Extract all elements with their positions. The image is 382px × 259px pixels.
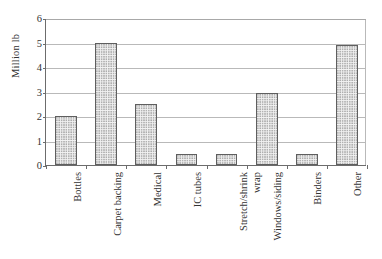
plot-area (45, 19, 366, 166)
bar (95, 43, 117, 166)
bars-container (46, 19, 366, 165)
bar (55, 116, 77, 165)
bar (135, 104, 157, 165)
x-tick-label-line: Stretch/shrink (238, 172, 249, 231)
y-tick-label: 0 (26, 160, 42, 172)
y-tick-label: 5 (26, 38, 42, 50)
bar (216, 154, 238, 165)
x-tick-label-line: Medical (152, 172, 163, 206)
x-tick-label: Carpet backing (111, 172, 125, 258)
x-tick-label-line: wrap (250, 172, 263, 258)
y-axis-tick-labels: 0123456 (26, 12, 42, 172)
x-tick-label: Stretch/shrinkwrap (237, 172, 265, 258)
y-tick-label: 2 (26, 111, 42, 123)
y-tick-label: 3 (26, 87, 42, 99)
x-tick-label-line: IC tubes (192, 172, 203, 207)
y-tick-label: 6 (26, 13, 42, 25)
x-tick-label: Windows/siding (271, 172, 285, 258)
y-axis-title: Million lb (10, 0, 24, 78)
x-tick-label-line: Windows/siding (272, 172, 283, 240)
x-tick-label: Medical (151, 172, 165, 258)
x-tick-label-line: Bottles (72, 172, 83, 202)
y-tick-label: 1 (26, 136, 42, 148)
x-tick-label-line: Carpet backing (112, 172, 123, 236)
bar-chart-figure: Million lb 0123456 BottlesCarpet backing… (0, 0, 382, 259)
x-tick-label: Bottles (71, 172, 85, 258)
x-tick-mark (327, 165, 328, 169)
x-tick-mark (126, 165, 127, 169)
x-tick-mark (86, 165, 87, 169)
bar (256, 93, 278, 165)
x-tick-mark (247, 165, 248, 169)
bar (336, 45, 358, 165)
x-tick-label-line: Other (352, 172, 363, 196)
y-tick-label: 4 (26, 62, 42, 74)
x-axis-tick-labels: BottlesCarpet backingMedicalIC tubesStre… (45, 172, 366, 258)
x-tick-label: Other (351, 172, 365, 258)
x-tick-mark (46, 165, 47, 169)
x-tick-mark (166, 165, 167, 169)
bar (176, 154, 198, 165)
bar (296, 154, 318, 165)
x-tick-label: IC tubes (191, 172, 205, 258)
x-tick-mark (287, 165, 288, 169)
x-tick-mark (207, 165, 208, 169)
x-tick-mark (367, 165, 368, 169)
x-tick-label-line: Binders (312, 172, 323, 205)
x-tick-label: Binders (311, 172, 325, 258)
